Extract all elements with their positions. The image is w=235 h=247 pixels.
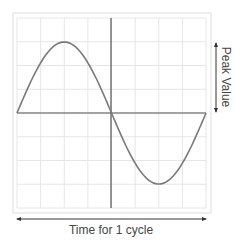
sine-wave-diagram: Peak Value Time for 1 cycle xyxy=(0,0,235,247)
peak-value-label: Peak Value xyxy=(219,47,233,108)
time-cycle-label: Time for 1 cycle xyxy=(69,223,154,237)
